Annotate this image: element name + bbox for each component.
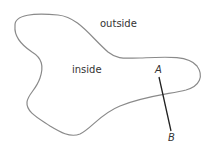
point-b-label: B <box>168 132 175 143</box>
segment-a-b <box>159 77 171 131</box>
outside-label: outside <box>100 18 137 29</box>
point-a-label: A <box>155 64 162 75</box>
closed-curve <box>15 14 200 135</box>
jordan-curve-diagram: outside inside A B <box>0 0 213 150</box>
inside-label: inside <box>72 64 102 75</box>
